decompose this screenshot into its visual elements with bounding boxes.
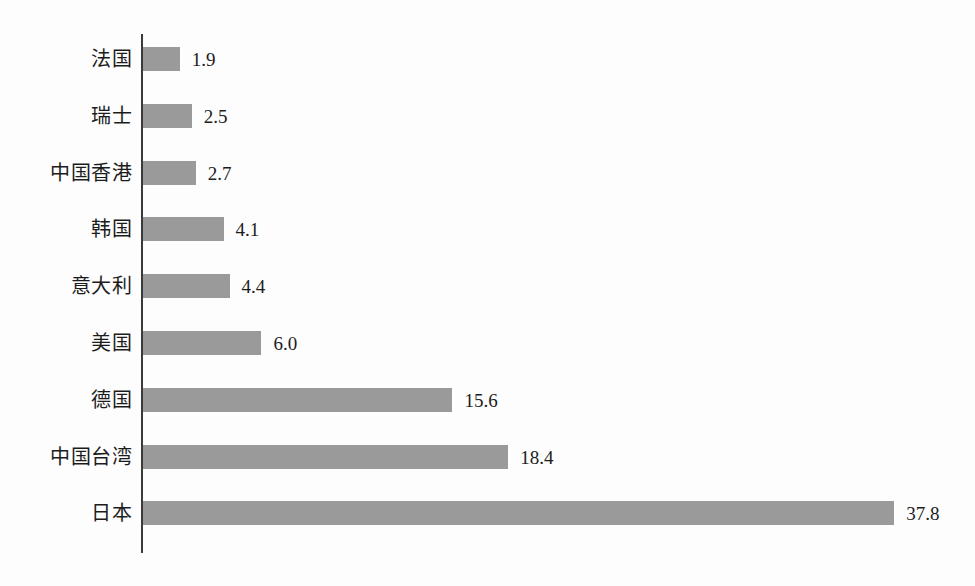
- bar-value-label: 4.1: [236, 220, 260, 239]
- bar: [142, 274, 230, 298]
- bar-row: 中国香港2.7: [0, 161, 975, 185]
- bar-value-label: 4.4: [242, 277, 266, 296]
- bar-value-label: 2.7: [208, 163, 232, 182]
- bar-value-label: 6.0: [273, 334, 297, 353]
- bar: [142, 47, 180, 71]
- bar-value-label: 1.9: [192, 50, 216, 69]
- bar-row: 日本37.8: [0, 501, 975, 525]
- bar: [142, 388, 452, 412]
- category-label: 日本: [91, 503, 132, 523]
- category-label: 韩国: [91, 219, 132, 239]
- category-label: 意大利: [71, 276, 133, 296]
- category-axis-line: [141, 34, 143, 553]
- bar-value-label: 15.6: [464, 390, 497, 409]
- bar: [142, 501, 894, 525]
- bar: [142, 161, 196, 185]
- bar-value-label: 18.4: [520, 447, 553, 466]
- bar-row: 德国15.6: [0, 388, 975, 412]
- category-label: 中国香港: [50, 163, 132, 183]
- bar: [142, 104, 192, 128]
- category-label: 中国台湾: [50, 447, 132, 467]
- category-label: 德国: [91, 390, 132, 410]
- category-label: 瑞士: [91, 106, 132, 126]
- bar-row: 法国1.9: [0, 47, 975, 71]
- bar-value-label: 2.5: [204, 106, 228, 125]
- bar-row: 瑞士2.5: [0, 104, 975, 128]
- bar: [142, 331, 261, 355]
- bar-chart: 法国1.9瑞士2.5中国香港2.7韩国4.1意大利4.4美国6.0德国15.6中…: [0, 0, 975, 586]
- bar-row: 美国6.0: [0, 331, 975, 355]
- bar: [142, 217, 224, 241]
- category-label: 美国: [91, 333, 132, 353]
- bar: [142, 445, 508, 469]
- bar-value-label: 37.8: [906, 504, 939, 523]
- bar-row: 韩国4.1: [0, 217, 975, 241]
- category-label: 法国: [91, 49, 132, 69]
- bar-row: 意大利4.4: [0, 274, 975, 298]
- plot-area: 法国1.9瑞士2.5中国香港2.7韩国4.1意大利4.4美国6.0德国15.6中…: [0, 0, 975, 586]
- bar-row: 中国台湾18.4: [0, 445, 975, 469]
